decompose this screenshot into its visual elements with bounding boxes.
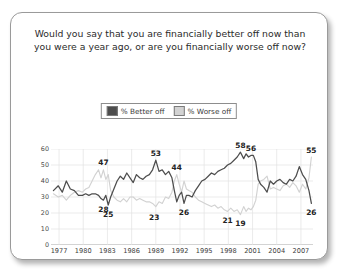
x-axis-tick-label: 1980 xyxy=(75,247,92,255)
data-label: 53 xyxy=(151,148,161,157)
x-axis-labels: 1977198019831986198919921995199820012004… xyxy=(41,247,328,260)
series-line xyxy=(53,157,311,215)
data-label: 23 xyxy=(149,212,159,221)
data-label: 58 xyxy=(235,140,245,149)
data-label: 26 xyxy=(306,207,316,216)
data-label: 25 xyxy=(103,209,113,218)
chart-legend: % Better off % Worse off xyxy=(101,103,237,119)
y-axis-labels: 0102030405060 xyxy=(21,143,49,251)
legend-item-better-off: % Better off xyxy=(107,106,165,116)
chart-plot-area: 47282553234426585621195526 xyxy=(51,149,313,245)
y-axis-tick-label: 50 xyxy=(41,161,49,169)
data-label: 47 xyxy=(98,158,108,167)
data-label: 26 xyxy=(179,207,189,216)
y-axis-tick-label: 40 xyxy=(41,177,49,185)
y-axis-tick-label: 10 xyxy=(41,225,49,233)
x-axis-tick-label: 2007 xyxy=(293,247,310,255)
x-axis-tick-label: 2001 xyxy=(244,247,261,255)
legend-swatch-better-off xyxy=(107,106,118,116)
legend-swatch-worse-off xyxy=(174,106,185,116)
x-axis-tick-label: 1995 xyxy=(196,247,213,255)
y-axis-tick-label: 20 xyxy=(41,209,49,217)
x-axis-tick-label: 1986 xyxy=(123,247,140,255)
legend-item-worse-off: % Worse off xyxy=(174,106,232,116)
data-label: 44 xyxy=(172,163,182,172)
legend-label-better-off: % Better off xyxy=(121,107,165,116)
chart-card: Would you say that you are financially b… xyxy=(10,12,328,260)
x-axis-tick-label: 1977 xyxy=(51,247,68,255)
x-axis-tick-label: 2004 xyxy=(268,247,285,255)
x-axis-tick-label: 1983 xyxy=(99,247,116,255)
x-axis-tick-label: 1992 xyxy=(172,247,189,255)
x-axis-tick-label: 1998 xyxy=(220,247,237,255)
data-label: 19 xyxy=(235,219,245,228)
legend-label-worse-off: % Worse off xyxy=(188,107,232,116)
page-title: Would you say that you are financially b… xyxy=(25,27,315,53)
data-label: 21 xyxy=(222,215,232,224)
x-axis-tick-label: 1989 xyxy=(147,247,164,255)
data-label: 56 xyxy=(246,143,256,152)
y-axis-tick-label: 60 xyxy=(41,145,49,153)
data-label: 55 xyxy=(306,145,316,154)
y-axis-tick-label: 30 xyxy=(41,193,49,201)
